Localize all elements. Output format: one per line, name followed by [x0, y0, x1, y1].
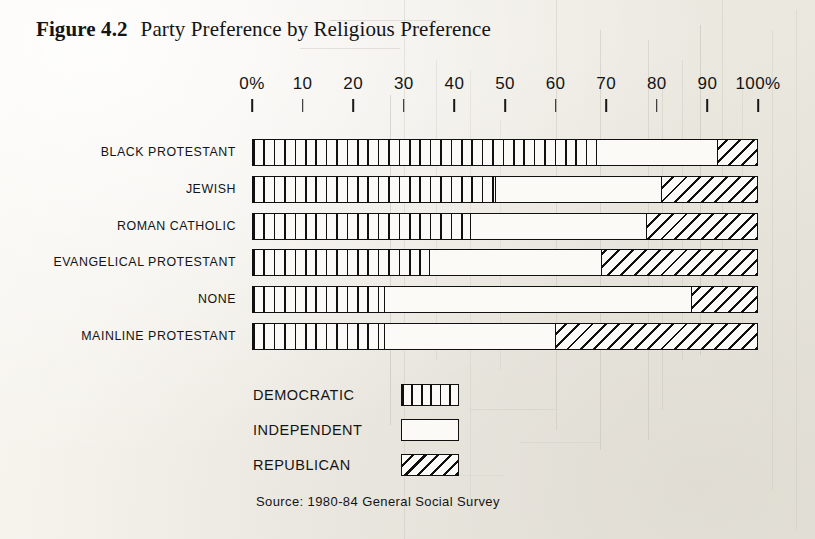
bar-segment-rep	[717, 140, 757, 165]
bar-segment-dem	[253, 287, 384, 312]
bar-segment-ind	[596, 140, 717, 165]
x-axis-tick-mark	[605, 99, 607, 112]
bar-segment-ind	[470, 214, 646, 239]
legend-swatch-rep	[401, 454, 459, 476]
category-label: EVANGELICAL PROTESTANT	[53, 255, 236, 269]
bar-segment-rep	[601, 250, 757, 275]
bar-segment-rep	[691, 287, 757, 312]
stacked-bar-row	[252, 249, 758, 276]
x-axis-tick-label: 80	[647, 74, 667, 94]
bar-segment-dem	[253, 250, 429, 275]
legend-item: REPUBLICAN	[253, 450, 459, 480]
stacked-bar-row	[252, 213, 758, 240]
x-axis-tick-label: 20	[343, 74, 363, 94]
category-axis-labels: BLACK PROTESTANTJEWISHROMAN CATHOLICEVAN…	[0, 0, 236, 539]
bar-segment-dem	[253, 140, 596, 165]
chart-legend: DEMOCRATICINDEPENDENTREPUBLICAN	[253, 380, 459, 485]
x-axis-tick-mark	[757, 99, 759, 112]
x-axis-tick-mark	[707, 99, 709, 112]
legend-label: DEMOCRATIC	[253, 387, 401, 403]
x-axis-tick-label: 30	[394, 74, 414, 94]
category-label: BLACK PROTESTANT	[101, 145, 236, 159]
legend-label: INDEPENDENT	[253, 422, 401, 438]
source-note: Source: 1980-84 General Social Survey	[256, 494, 500, 509]
bar-segment-rep	[555, 324, 757, 349]
x-axis-tick-label: 60	[546, 74, 566, 94]
category-label: NONE	[198, 292, 236, 306]
x-axis-tick-label: 50	[495, 74, 515, 94]
legend-item: INDEPENDENT	[253, 415, 459, 445]
x-axis-tick-label: 100%	[735, 74, 780, 94]
x-axis-tick-mark	[656, 99, 658, 112]
x-axis-tick-mark	[403, 99, 405, 112]
x-axis-tick-mark	[352, 99, 354, 112]
legend-swatch-dem	[401, 384, 459, 406]
scanned-page: —————————————————————————————— Figure 4.…	[0, 0, 815, 539]
x-axis-tick-label: 0%	[239, 74, 264, 94]
bar-segment-dem	[253, 177, 495, 202]
x-axis-tick-mark	[454, 99, 456, 112]
bar-segment-dem	[253, 324, 384, 349]
x-axis-tick-label: 40	[445, 74, 465, 94]
legend-item: DEMOCRATIC	[253, 380, 459, 410]
bar-segment-ind	[384, 324, 555, 349]
legend-swatch-ind	[401, 419, 459, 441]
bar-segment-ind	[495, 177, 661, 202]
stacked-bar-row	[252, 323, 758, 350]
legend-label: REPUBLICAN	[253, 457, 401, 473]
x-axis-tick-label: 10	[293, 74, 313, 94]
bar-segment-ind	[429, 250, 600, 275]
x-axis-tick-mark	[251, 99, 253, 112]
category-label: JEWISH	[186, 182, 236, 196]
x-axis-tick-label: 90	[698, 74, 718, 94]
bar-segment-rep	[646, 214, 757, 239]
bar-segment-rep	[661, 177, 757, 202]
x-axis-tick-label: 70	[596, 74, 616, 94]
bar-segment-dem	[253, 214, 470, 239]
x-axis-tick-mark	[555, 99, 557, 112]
stacked-bar-row	[252, 139, 758, 166]
x-axis-tick-mark	[302, 99, 304, 112]
stacked-bar-row	[252, 176, 758, 203]
bar-segment-ind	[384, 287, 691, 312]
category-label: MAINLINE PROTESTANT	[81, 329, 236, 343]
category-label: ROMAN CATHOLIC	[117, 219, 236, 233]
stacked-bar-row	[252, 286, 758, 313]
x-axis-tick-mark	[504, 99, 506, 112]
